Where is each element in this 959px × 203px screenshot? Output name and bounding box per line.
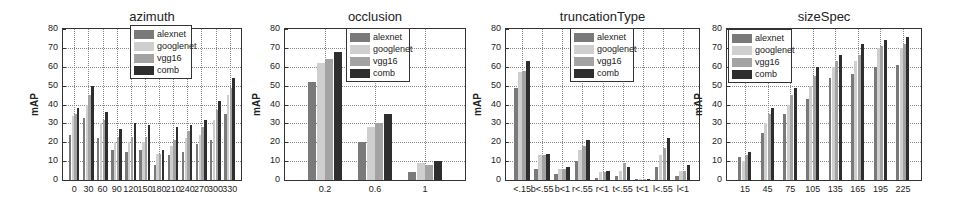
gridline-horizontal [727, 86, 921, 87]
chart-sizeSpec: sizeSpec01020304050607080mAP154575105135… [0, 0, 959, 203]
y-tick-mark [727, 123, 730, 124]
y-tick-label: 70 [702, 42, 722, 52]
legend-label: alexnet [755, 33, 784, 43]
bar-comb [794, 88, 797, 180]
y-tick-label: 30 [702, 117, 722, 127]
gridline-horizontal [727, 123, 921, 124]
y-tick-mark [727, 161, 730, 162]
legend-swatch-icon [732, 46, 752, 55]
bar-comb [816, 67, 819, 180]
legend-item-comb: comb [732, 68, 788, 80]
chart-title: sizeSpec [726, 9, 922, 24]
y-tick-mark [727, 142, 730, 143]
y-tick-label: 80 [702, 23, 722, 33]
bar-comb [771, 108, 774, 180]
y-tick-label: 0 [702, 174, 722, 184]
legend-item-alexnet: alexnet [732, 32, 788, 44]
legend-swatch-icon [732, 34, 752, 43]
y-axis-label: mAP [693, 92, 704, 116]
gridline-horizontal [727, 161, 921, 162]
y-tick-label: 50 [702, 80, 722, 90]
bar-comb [884, 40, 887, 180]
y-tick-label: 10 [702, 155, 722, 165]
y-tick-label: 60 [702, 61, 722, 71]
legend-label: comb [755, 69, 777, 79]
bar-comb [839, 55, 842, 180]
legend-swatch-icon [732, 58, 752, 67]
bar-comb [861, 44, 864, 180]
x-tick-label: 225 [888, 184, 918, 194]
y-tick-label: 20 [702, 136, 722, 146]
y-tick-mark [727, 86, 730, 87]
legend-item-googlenet: googlenet [732, 44, 788, 56]
legend: alexnetgooglenetvgg16comb [728, 29, 792, 83]
bar-comb [748, 152, 751, 180]
y-tick-mark [727, 105, 730, 106]
y-tick-label: 40 [702, 99, 722, 109]
legend-item-vgg16: vgg16 [732, 56, 788, 68]
bar-comb [906, 37, 909, 180]
legend-label: vgg16 [755, 57, 780, 67]
gridline-horizontal [727, 142, 921, 143]
legend-label: googlenet [755, 45, 795, 55]
legend-swatch-icon [732, 70, 752, 79]
y-tick-mark [727, 180, 730, 181]
gridline-horizontal [727, 105, 921, 106]
